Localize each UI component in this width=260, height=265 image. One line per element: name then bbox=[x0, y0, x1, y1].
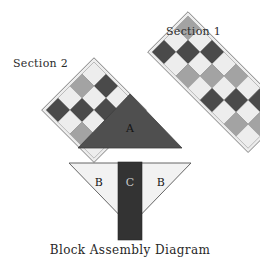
piece-b-right-label: B bbox=[157, 176, 165, 189]
piece-b-left-label: B bbox=[95, 176, 103, 189]
bottom-assembly-group[interactable]: B B C bbox=[69, 162, 191, 240]
sash-c[interactable] bbox=[118, 162, 142, 240]
piece-c-label: C bbox=[126, 176, 135, 189]
block-assembly-diagram: A B B C Section 1 Section 2 Block Assemb… bbox=[0, 0, 260, 265]
diagram-caption: Block Assembly Diagram bbox=[0, 243, 260, 257]
section2-label: Section 2 bbox=[13, 57, 68, 70]
piece-a-label: A bbox=[125, 122, 135, 135]
diagram-canvas: A B B C bbox=[0, 0, 260, 265]
section1-label: Section 1 bbox=[166, 25, 221, 38]
